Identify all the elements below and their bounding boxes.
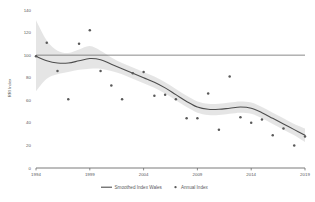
y-tick-label: 140 <box>24 8 32 13</box>
scatter-point <box>153 95 156 98</box>
scatter-point <box>132 72 135 75</box>
chart-background <box>0 0 315 202</box>
x-tick-label: 1994 <box>31 172 41 177</box>
scatter-point <box>56 70 59 73</box>
scatter-point <box>46 41 49 44</box>
x-tick-label: 2014 <box>246 172 256 177</box>
x-tick-label: 2004 <box>139 172 149 177</box>
scatter-point <box>185 117 188 120</box>
scatter-point <box>228 75 231 78</box>
scatter-point <box>89 29 92 32</box>
scatter-point <box>121 98 124 101</box>
scatter-point <box>196 117 199 120</box>
scatter-point <box>304 135 307 138</box>
legend-label-smoothed-index-wales: Smoothed Index Wales <box>115 185 163 190</box>
y-tick-label: 100 <box>24 53 32 58</box>
scatter-point <box>239 116 242 119</box>
chart-legend: Smoothed Index Wales Annual Index <box>101 185 209 190</box>
x-tick-label: 2009 <box>193 172 203 177</box>
scatter-point <box>142 71 145 74</box>
scatter-point <box>99 70 102 73</box>
scatter-point <box>67 98 70 101</box>
scatter-point <box>78 43 81 46</box>
scatter-point <box>35 55 38 58</box>
scatter-point <box>110 84 113 87</box>
y-tick-label: 120 <box>24 30 32 35</box>
scatter-point <box>164 93 167 96</box>
y-tick-label: 60 <box>26 98 31 103</box>
line-chart: 020406080100120140 199419992004200920142… <box>0 0 315 202</box>
chart-container: 020406080100120140 199419992004200920142… <box>0 0 315 202</box>
scatter-point <box>218 128 221 131</box>
scatter-point <box>293 144 296 147</box>
scatter-point <box>282 127 285 130</box>
y-axis-title: RRI Index <box>7 78 12 98</box>
y-tick-label: 80 <box>26 75 31 80</box>
scatter-point <box>207 92 210 95</box>
y-tick-label: 20 <box>26 143 31 148</box>
scatter-point <box>250 122 253 125</box>
x-tick-label: 2019 <box>300 172 310 177</box>
scatter-point <box>271 134 274 137</box>
legend-label-annual-index: Annual Index <box>181 185 209 190</box>
scatter-point <box>175 98 178 101</box>
scatter-point <box>261 118 264 121</box>
x-tick-label: 1999 <box>85 172 95 177</box>
legend-dot-marker <box>174 186 176 188</box>
y-tick-label: 40 <box>26 120 31 125</box>
